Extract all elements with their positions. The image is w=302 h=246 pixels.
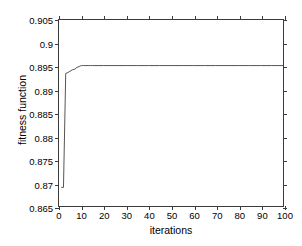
y-tick-mark — [55, 91, 59, 92]
y-tick-mark — [55, 185, 59, 186]
y-tick-mark-mirror — [283, 185, 287, 186]
y-tick-label: 0.87 — [35, 179, 54, 190]
x-tick-mark-mirror — [172, 16, 173, 20]
y-tick-label: 0.905 — [29, 15, 53, 26]
y-tick-mark-mirror — [283, 114, 287, 115]
x-tick-label: 10 — [76, 210, 87, 221]
y-tick-label: 0.895 — [29, 62, 53, 73]
y-tick-mark-mirror — [283, 67, 287, 68]
x-tick-label: 0 — [56, 210, 61, 221]
x-tick-mark-mirror — [104, 16, 105, 20]
y-tick-mark-mirror — [283, 20, 287, 21]
y-tick-mark-mirror — [283, 138, 287, 139]
x-tick-label: 40 — [144, 210, 155, 221]
y-tick-mark — [55, 114, 59, 115]
x-tick-mark-mirror — [217, 16, 218, 20]
y-tick-label: 0.89 — [35, 85, 54, 96]
y-tick-label: 0.865 — [29, 203, 53, 214]
y-tick-label: 0.9 — [40, 38, 53, 49]
y-tick-mark — [55, 67, 59, 68]
y-tick-label: 0.875 — [29, 156, 53, 167]
y-axis-label: fitness function — [14, 14, 30, 206]
x-tick-mark-mirror — [59, 16, 60, 20]
y-tick-mark — [55, 161, 59, 162]
x-tick-label: 60 — [189, 210, 200, 221]
x-tick-label: 90 — [257, 210, 268, 221]
x-tick-mark-mirror — [82, 16, 83, 20]
x-axis-label: iterations — [58, 224, 284, 236]
x-tick-label: 80 — [235, 210, 246, 221]
x-tick-mark-mirror — [127, 16, 128, 20]
x-tick-label: 50 — [167, 210, 178, 221]
y-tick-mark-mirror — [283, 91, 287, 92]
line-series-plot — [59, 20, 283, 206]
y-tick-mark — [55, 44, 59, 45]
fitness-curve — [61, 66, 283, 188]
x-tick-mark-mirror — [262, 16, 263, 20]
x-tick-label: 20 — [99, 210, 110, 221]
y-tick-mark — [55, 138, 59, 139]
x-tick-label: 30 — [122, 210, 133, 221]
figure-canvas: fitness function 0.8650.870.8750.880.885… — [0, 0, 302, 246]
y-tick-label: 0.885 — [29, 109, 53, 120]
y-tick-mark-mirror — [283, 44, 287, 45]
x-tick-mark-mirror — [195, 16, 196, 20]
x-tick-mark-mirror — [285, 16, 286, 20]
y-tick-label: 0.88 — [35, 132, 54, 143]
y-tick-mark-mirror — [283, 161, 287, 162]
x-tick-mark-mirror — [240, 16, 241, 20]
plot-area: 0.8650.870.8750.880.8850.890.8950.90.905… — [58, 19, 284, 207]
x-tick-label: 100 — [277, 210, 293, 221]
x-tick-label: 70 — [212, 210, 223, 221]
x-tick-mark-mirror — [149, 16, 150, 20]
y-tick-mark — [55, 20, 59, 21]
